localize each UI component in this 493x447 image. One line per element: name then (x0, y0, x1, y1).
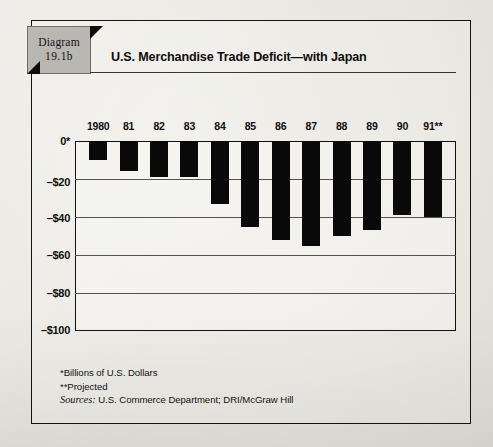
bar-slot (144, 141, 174, 331)
bar-slot (266, 141, 296, 331)
bar-slot (296, 141, 326, 331)
x-tick-label-85: 85 (235, 120, 265, 136)
footnote-units: *Billions of U.S. Dollars (60, 366, 293, 380)
x-tick-label-86: 86 (266, 120, 296, 136)
x-tick-label-89: 89 (357, 120, 387, 136)
y-tick-label-100: –$100 (41, 324, 70, 336)
bar-1980[interactable] (89, 141, 107, 160)
bar-89[interactable] (363, 141, 381, 230)
bar-slot (113, 141, 143, 331)
bar-82[interactable] (150, 141, 168, 177)
bar-88[interactable] (333, 141, 351, 236)
bar-slot (357, 141, 387, 331)
bar-chart-plot (75, 141, 456, 331)
bar-81[interactable] (120, 141, 138, 171)
bar-85[interactable] (241, 141, 259, 227)
y-tick-label-60: –$60 (47, 249, 70, 261)
sources-label: Sources: (60, 394, 96, 405)
y-tick-label-80: –$80 (47, 287, 70, 299)
x-tick-label-90: 90 (387, 120, 417, 136)
chart-title: U.S. Merchandise Trade Deficit—with Japa… (111, 50, 367, 64)
footnote-sources: Sources: U.S. Commerce Department; DRI/M… (60, 393, 293, 407)
bar-slot (235, 141, 265, 331)
bar-87[interactable] (302, 141, 320, 246)
bar-83[interactable] (180, 141, 198, 177)
title-underline-rule (90, 72, 456, 73)
bar-slot (326, 141, 356, 331)
bar-slot (83, 141, 113, 331)
y-tick-label-40: –$40 (47, 212, 70, 224)
bar-84[interactable] (211, 141, 229, 204)
x-tick-label-1980: 1980 (83, 120, 113, 136)
footnote-projected: **Projected (60, 380, 293, 394)
x-tick-label-88: 88 (326, 120, 356, 136)
x-tick-label-84: 84 (205, 120, 235, 136)
bar-91[interactable] (424, 141, 442, 217)
bar-series (75, 141, 456, 331)
bar-slot (174, 141, 204, 331)
x-tick-label-87: 87 (296, 120, 326, 136)
bar-90[interactable] (393, 141, 411, 215)
x-axis-labels: 19808182838485868788899091** (75, 120, 456, 136)
bar-slot (387, 141, 417, 331)
x-tick-label-81: 81 (113, 120, 143, 136)
x-tick-label-82: 82 (144, 120, 174, 136)
tab-fold-corner-top-right-icon (90, 26, 103, 39)
bar-slot (205, 141, 235, 331)
x-tick-label-83: 83 (174, 120, 204, 136)
x-tick-label-91: 91** (418, 120, 448, 136)
y-tick-label-20: –$20 (47, 176, 70, 188)
bar-86[interactable] (272, 141, 290, 240)
footnotes: *Billions of U.S. Dollars **Projected So… (60, 366, 293, 407)
sources-text: U.S. Commerce Department; DRI/McGraw Hil… (98, 394, 293, 405)
y-tick-label-0: 0* (60, 135, 70, 147)
bar-slot (418, 141, 448, 331)
